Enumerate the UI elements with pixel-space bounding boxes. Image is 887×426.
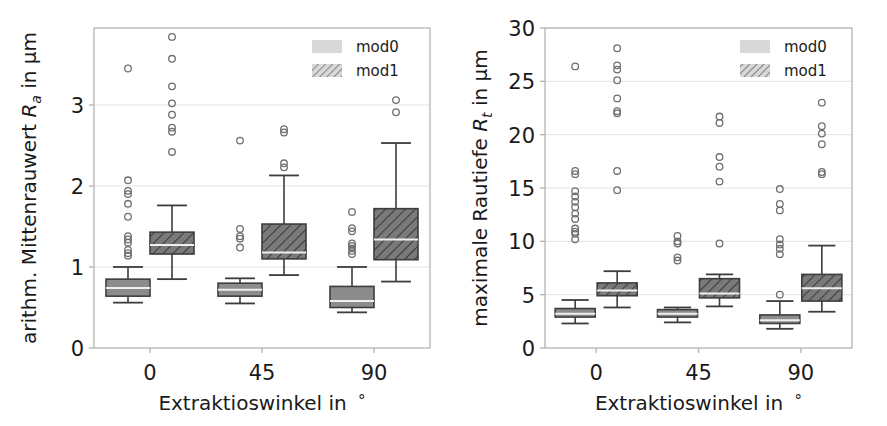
legend-swatch-mod0 — [740, 40, 770, 53]
yaxis-title: maximale Rautiefe Rt in µm — [468, 49, 495, 326]
yaxis-title-subscript: a — [28, 95, 44, 104]
yaxis-title-symbol: R — [17, 104, 41, 118]
xaxis-title-text: Extraktioswinkel in — [595, 391, 790, 415]
panel-right: 05101520253004590mod0mod1Extraktioswinke… — [468, 17, 852, 415]
legend-label-mod1: mod1 — [784, 62, 827, 80]
box-body — [262, 224, 306, 259]
ytick-label-25: 25 — [508, 70, 535, 94]
box-body — [597, 283, 637, 296]
panel-left: 012304590mod0mod1Extraktioswinkel in °ar… — [17, 28, 430, 415]
legend-swatch-mod1 — [312, 64, 342, 77]
ytick-label-0: 0 — [522, 337, 535, 361]
xtick-label-90: 90 — [787, 361, 814, 385]
ytick-label-5: 5 — [522, 284, 535, 308]
xtick-label-45: 45 — [249, 361, 276, 385]
yaxis-title-pre: arithm. Mittenrauwert — [17, 118, 41, 344]
yaxis-title-symbol: R — [468, 118, 492, 132]
xtick-label-90: 90 — [361, 361, 388, 385]
box-body — [700, 279, 740, 298]
yaxis-title-post: in µm — [468, 49, 492, 112]
ytick-label-3: 3 — [71, 94, 84, 118]
ytick-label-15: 15 — [508, 177, 535, 201]
xaxis-title: Extraktioswinkel in ° — [595, 391, 802, 415]
yaxis-title: arithm. Mittenrauwert Ra in µm — [17, 32, 44, 344]
legend-swatch-mod1 — [740, 64, 770, 77]
yaxis-title-post: in µm — [17, 32, 41, 95]
legend-swatch-mod0 — [312, 40, 342, 53]
figure-canvas: 012304590mod0mod1Extraktioswinkel in °ar… — [0, 0, 887, 426]
ytick-label-0: 0 — [71, 337, 84, 361]
legend-label-mod0: mod0 — [784, 38, 827, 56]
ytick-label-2: 2 — [71, 175, 84, 199]
ytick-label-30: 30 — [508, 17, 535, 41]
box-body — [374, 209, 418, 260]
box-body — [150, 232, 194, 254]
yaxis-title-pre: maximale Rautiefe — [468, 132, 492, 327]
legend-label-mod0: mod0 — [356, 38, 399, 56]
xtick-label-45: 45 — [685, 361, 712, 385]
ytick-label-1: 1 — [71, 256, 84, 280]
box-body — [760, 315, 800, 324]
box-body — [330, 286, 374, 307]
boxplot-figure: 012304590mod0mod1Extraktioswinkel in °ar… — [0, 0, 887, 426]
box-body — [555, 309, 595, 318]
degree-symbol: ° — [358, 392, 366, 410]
legend-label-mod1: mod1 — [356, 62, 399, 80]
xaxis-title-text: Extraktioswinkel in — [158, 391, 353, 415]
ytick-label-20: 20 — [508, 124, 535, 148]
xaxis-title: Extraktioswinkel in ° — [158, 391, 365, 415]
degree-symbol: ° — [795, 392, 803, 410]
ytick-label-10: 10 — [508, 230, 535, 254]
xtick-label-0: 0 — [143, 361, 156, 385]
xtick-label-0: 0 — [589, 361, 602, 385]
